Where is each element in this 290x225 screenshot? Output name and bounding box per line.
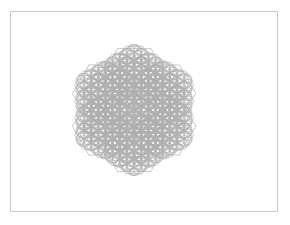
figure-canvas: [0, 0, 290, 225]
hexagon-fractal-group: [72, 45, 195, 176]
vector-figure: [0, 0, 290, 225]
